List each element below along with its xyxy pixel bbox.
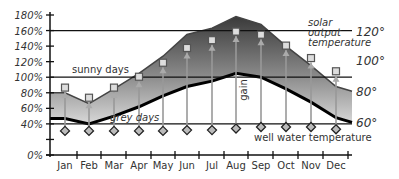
- x-tick-label: Nov: [301, 160, 321, 171]
- well-water-marker-icon: [61, 126, 70, 135]
- solar-output-marker-icon: [111, 84, 118, 91]
- x-tick-label: Oct: [277, 160, 294, 171]
- grey-days-label: grey days: [110, 112, 159, 123]
- x-tick-label: Dec: [326, 160, 345, 171]
- x-tick-label: Jan: [56, 160, 72, 171]
- x-tick-label: May: [153, 160, 174, 171]
- solar-gain-chart: 0%40%60%80%100%120%140%160%180%JanFebMar…: [0, 0, 399, 179]
- solar-output-marker-icon: [86, 94, 93, 101]
- well-water-marker-icon: [208, 126, 217, 135]
- x-tick-label: Sep: [252, 160, 271, 171]
- x-tick-label: Apr: [130, 160, 148, 171]
- y-tick-label: 180%: [14, 10, 43, 21]
- well-water-marker-icon: [135, 126, 144, 135]
- x-tick-label: Aug: [226, 160, 246, 171]
- x-tick-label: Feb: [80, 160, 98, 171]
- solar-output-marker-icon: [233, 28, 240, 35]
- y-tick-label: 40%: [21, 119, 43, 130]
- solar-output-marker-icon: [136, 73, 143, 80]
- well-water-marker-icon: [110, 126, 119, 135]
- x-tick-label: Jul: [205, 160, 218, 171]
- solar-output-marker-icon: [283, 42, 290, 49]
- right-axis-label: 60°: [356, 116, 377, 130]
- solar-output-marker-icon: [62, 84, 69, 91]
- well-water-label: well water temperature: [254, 132, 372, 143]
- y-tick-label: 60%: [21, 103, 43, 114]
- solar-output-marker-icon: [308, 55, 315, 62]
- y-tick-label: 0%: [27, 150, 43, 161]
- y-tick-label: 140%: [14, 41, 43, 52]
- solar-output-marker-icon: [209, 37, 216, 44]
- solar-output-label: temperature: [308, 37, 371, 48]
- y-tick-label: 100%: [14, 72, 43, 83]
- x-tick-label: Jun: [178, 160, 195, 171]
- well-water-marker-icon: [183, 126, 192, 135]
- right-axis-label: 80°: [356, 85, 377, 99]
- y-tick-label: 160%: [14, 26, 43, 37]
- well-water-marker-icon: [232, 124, 241, 133]
- well-water-marker-icon: [159, 126, 168, 135]
- solar-output-marker-icon: [160, 59, 167, 66]
- x-tick-label: Mar: [105, 160, 125, 171]
- solar-output-marker-icon: [184, 44, 191, 51]
- sunny-days-label: sunny days: [72, 64, 129, 75]
- solar-output-marker-icon: [258, 31, 265, 38]
- gain-label: gain: [238, 79, 249, 101]
- right-axis-label: 100°: [356, 54, 385, 68]
- solar-output-marker-icon: [333, 68, 340, 75]
- well-water-marker-icon: [85, 126, 94, 135]
- y-tick-label: 80%: [21, 88, 43, 99]
- plot-area: 0%40%60%80%100%120%140%160%180%JanFebMar…: [14, 10, 385, 171]
- y-tick-label: 120%: [14, 57, 43, 68]
